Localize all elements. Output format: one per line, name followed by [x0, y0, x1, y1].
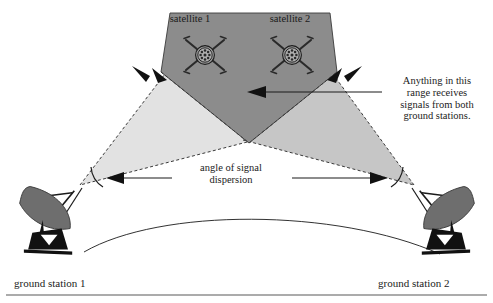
- earth-curve: [84, 219, 440, 254]
- ground-station-2-icon: [420, 187, 475, 255]
- ground-station-1-icon: [20, 187, 75, 255]
- range-annotation: Anything in this range receives signals …: [384, 75, 490, 122]
- arrowhead-left-outer: [132, 66, 150, 82]
- ground-station-2-label: ground station 2: [378, 277, 450, 289]
- diagram-canvas: satellite 1 satellite 2 Anything in this…: [0, 0, 493, 303]
- satellite-1-label: satellite 1: [148, 13, 232, 25]
- angle-annotation: angle of signal dispersion: [172, 162, 290, 186]
- ground-station-1-label: ground station 1: [14, 277, 86, 289]
- diagram-svg: [0, 0, 493, 303]
- arrowhead-right-outer: [344, 66, 362, 82]
- satellite-2-label: satellite 2: [248, 13, 332, 25]
